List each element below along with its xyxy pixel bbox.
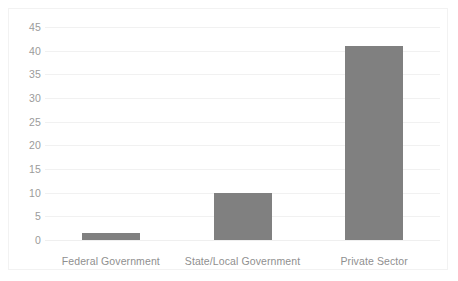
y-axis-tick-label: 45 bbox=[15, 22, 41, 33]
bar[interactable] bbox=[345, 46, 403, 240]
y-axis-tick-label: 10 bbox=[15, 187, 41, 198]
y-axis-tick-label: 0 bbox=[15, 235, 41, 246]
y-axis-tick-label: 25 bbox=[15, 116, 41, 127]
x-axis-tick-label: State/Local Government bbox=[185, 254, 300, 268]
axis-baseline bbox=[45, 240, 440, 241]
x-axis-tick-label: Private Sector bbox=[340, 254, 407, 268]
y-axis-tick-label: 20 bbox=[15, 140, 41, 151]
y-axis-tick-label: 35 bbox=[15, 69, 41, 80]
bar[interactable] bbox=[214, 193, 272, 240]
y-axis-tick-label: 30 bbox=[15, 93, 41, 104]
plot-area bbox=[45, 21, 440, 246]
x-axis: Federal GovernmentState/Local Government… bbox=[45, 254, 440, 270]
bar-chart: 051015202530354045 Federal GovernmentSta… bbox=[8, 8, 448, 270]
y-axis-tick-label: 5 bbox=[15, 211, 41, 222]
y-axis-tick-label: 40 bbox=[15, 45, 41, 56]
y-axis: 051015202530354045 bbox=[13, 21, 41, 246]
bar[interactable] bbox=[82, 233, 140, 240]
gridline bbox=[45, 27, 440, 28]
x-axis-tick-label: Federal Government bbox=[62, 254, 160, 268]
y-axis-tick-label: 15 bbox=[15, 164, 41, 175]
